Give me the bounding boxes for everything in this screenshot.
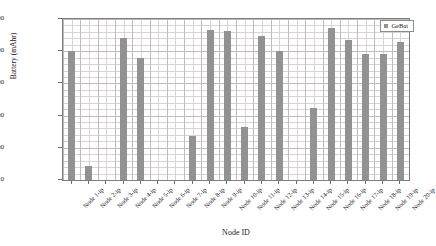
x-tick-mark	[140, 181, 141, 184]
bar	[362, 54, 369, 180]
bar	[380, 54, 387, 180]
x-tick-mark	[347, 181, 348, 184]
x-tick-mark	[226, 181, 227, 184]
bar	[328, 28, 335, 180]
legend-label-gebat: GeBat	[391, 22, 408, 30]
x-tick-mark	[382, 181, 383, 184]
x-tick-mark	[278, 181, 279, 184]
legend-swatch-gebat	[384, 24, 388, 28]
x-tick-mark	[261, 181, 262, 184]
x-tick-mark	[399, 181, 400, 184]
bar	[397, 42, 404, 180]
x-tick-mark	[209, 181, 210, 184]
bar	[137, 58, 144, 180]
y-tick-label: 500	[0, 143, 4, 150]
x-tick-mark	[296, 181, 297, 184]
bar	[241, 127, 248, 180]
bar	[120, 38, 127, 180]
x-tick-mark	[330, 181, 331, 184]
y-tick-label: 2500	[0, 15, 4, 22]
bar	[258, 36, 265, 180]
x-tick-mark	[313, 181, 314, 184]
x-axis: Node 1-ipNode 2-ipNode 3-ipNode 4-ipNode…	[62, 181, 410, 226]
bar	[85, 166, 92, 180]
x-tick-mark	[174, 181, 175, 184]
y-tick-label: 2000	[0, 47, 4, 54]
x-tick-mark	[157, 181, 158, 184]
x-tick-mark	[88, 181, 89, 184]
y-tick-label: 1000	[0, 111, 4, 118]
x-axis-title: Node ID	[62, 228, 410, 237]
bar	[224, 31, 231, 180]
y-axis-title: Battery (mAhr)	[10, 6, 18, 106]
bar-series-gebat	[63, 19, 409, 180]
bar	[310, 108, 317, 180]
x-tick-mark	[244, 181, 245, 184]
x-tick-mark	[71, 181, 72, 184]
bar	[207, 30, 214, 180]
bar	[189, 136, 196, 180]
bar	[276, 51, 283, 180]
x-tick-mark	[365, 181, 366, 184]
bar	[68, 51, 75, 180]
x-tick-mark	[105, 181, 106, 184]
y-tick-label: 1500	[0, 79, 4, 86]
x-tick-mark	[123, 181, 124, 184]
y-tick-label: 0	[1, 176, 5, 183]
y-axis: Battery (mAhr) 05001000150020002500	[0, 0, 62, 181]
plot-area	[62, 18, 410, 181]
chart-legend: GeBat	[380, 20, 414, 32]
x-tick-mark	[192, 181, 193, 184]
bar	[345, 40, 352, 180]
gridline-vertical	[409, 19, 410, 180]
